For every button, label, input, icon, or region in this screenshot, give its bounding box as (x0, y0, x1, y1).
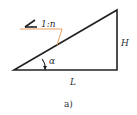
angle-symbol-icon (25, 20, 37, 27)
slope-triangle-diagram: 1:n α H L a) (0, 0, 137, 115)
length-label: L (69, 77, 76, 87)
height-label: H (120, 38, 129, 48)
figure-caption: a) (64, 99, 73, 109)
slope-marker-line (20, 29, 62, 45)
right-triangle (14, 10, 117, 70)
slope-ratio-label: 1:n (41, 19, 56, 29)
angle-label: α (49, 56, 55, 66)
